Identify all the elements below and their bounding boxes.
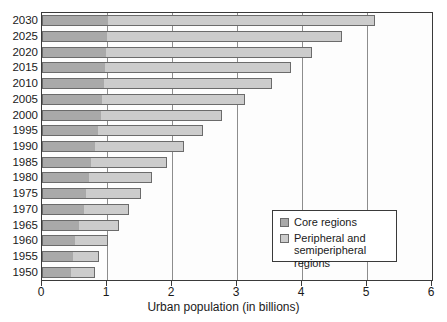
y-axis-labels: 2030202520202015201020052000199519901985… <box>0 12 38 281</box>
x-axis-tick-labels: 0123456 <box>0 285 447 301</box>
bar-segment-core <box>42 62 105 73</box>
bar-row <box>42 94 245 105</box>
bar-segment-core <box>42 251 73 262</box>
y-axis-label-1950: 1950 <box>12 267 38 278</box>
bar-segment-peripheral <box>107 31 342 42</box>
x-tick-label-0: 0 <box>31 285 51 299</box>
bar-row <box>42 110 222 121</box>
y-axis-label-1975: 1975 <box>12 188 38 199</box>
legend: Core regions Peripheral and semiperipher… <box>272 210 397 262</box>
y-axis-label-1995: 1995 <box>12 125 38 136</box>
bar-segment-peripheral <box>84 204 130 215</box>
legend-label-core: Core regions <box>294 216 357 229</box>
bar-segment-peripheral <box>108 15 375 26</box>
urban-population-chart: 2030202520202015201020052000199519901985… <box>0 0 447 322</box>
y-axis-label-2000: 2000 <box>12 110 38 121</box>
y-axis-label-1955: 1955 <box>12 251 38 262</box>
bar-segment-core <box>42 172 89 183</box>
bar-row <box>42 157 167 168</box>
bar-row <box>42 172 152 183</box>
bar-segment-core <box>42 235 75 246</box>
bar-segment-peripheral <box>75 235 108 246</box>
bar-segment-core <box>42 188 86 199</box>
bar-segment-peripheral <box>73 251 99 262</box>
bar-row <box>42 31 342 42</box>
bar-segment-core <box>42 94 102 105</box>
bar-row <box>42 62 291 73</box>
bar-segment-core <box>42 15 108 26</box>
bar-segment-peripheral <box>95 141 185 152</box>
bar-segment-peripheral <box>98 125 203 136</box>
bar-row <box>42 251 99 262</box>
x-tick-label-4: 4 <box>291 285 311 299</box>
y-axis-label-1980: 1980 <box>12 172 38 183</box>
y-axis-label-1970: 1970 <box>12 204 38 215</box>
bar-segment-peripheral <box>105 62 291 73</box>
y-axis-label-1990: 1990 <box>12 141 38 152</box>
y-axis-label-2020: 2020 <box>12 47 38 58</box>
bar-segment-peripheral <box>102 94 244 105</box>
bar-segment-peripheral <box>101 110 223 121</box>
bar-row <box>42 125 203 136</box>
bar-segment-core <box>42 110 101 121</box>
bar-row <box>42 188 141 199</box>
y-axis-label-2005: 2005 <box>12 94 38 105</box>
bar-segment-peripheral <box>106 47 311 58</box>
bar-row <box>42 15 375 26</box>
bar-segment-core <box>42 78 104 89</box>
bar-segment-core <box>42 220 79 231</box>
x-tick-label-1: 1 <box>96 285 116 299</box>
bar-row <box>42 220 119 231</box>
bar-segment-core <box>42 157 91 168</box>
y-axis-label-2010: 2010 <box>12 78 38 89</box>
bar-segment-peripheral <box>91 157 166 168</box>
bar-row <box>42 78 272 89</box>
bar-row <box>42 204 129 215</box>
bar-segment-core <box>42 267 71 278</box>
x-tick-label-3: 3 <box>226 285 246 299</box>
bar-row <box>42 141 184 152</box>
y-axis-label-2030: 2030 <box>12 15 38 26</box>
bar-row <box>42 235 108 246</box>
bar-segment-core <box>42 204 84 215</box>
bar-row <box>42 267 95 278</box>
bar-segment-core <box>42 47 106 58</box>
bar-segment-core <box>42 141 95 152</box>
x-axis-title: Urban population (in billions) <box>0 300 447 314</box>
legend-item-core[interactable]: Core regions <box>280 216 390 229</box>
x-tick-label-2: 2 <box>161 285 181 299</box>
bar-segment-peripheral <box>86 188 141 199</box>
x-tick-label-6: 6 <box>421 285 441 299</box>
peripheral-regions-swatch <box>280 234 289 243</box>
y-axis-label-2025: 2025 <box>12 31 38 42</box>
legend-label-peripheral: Peripheral and semiperipheral regions <box>294 232 390 270</box>
bar-segment-core <box>42 31 107 42</box>
x-tick-label-5: 5 <box>356 285 376 299</box>
bar-segment-core <box>42 125 98 136</box>
y-axis-label-1985: 1985 <box>12 157 38 168</box>
y-axis-label-1960: 1960 <box>12 235 38 246</box>
bar-segment-peripheral <box>104 78 272 89</box>
y-axis-label-1965: 1965 <box>12 220 38 231</box>
bar-segment-peripheral <box>89 172 153 183</box>
legend-item-peripheral[interactable]: Peripheral and semiperipheral regions <box>280 232 390 270</box>
bar-row <box>42 47 312 58</box>
y-axis-label-2015: 2015 <box>12 62 38 73</box>
bar-segment-peripheral <box>79 220 119 231</box>
core-regions-swatch <box>280 218 289 227</box>
bar-segment-peripheral <box>71 267 95 278</box>
